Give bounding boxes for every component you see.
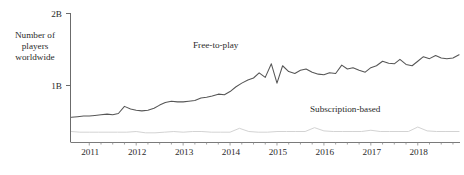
x-tick-label-2016: 2016 bbox=[305, 147, 345, 157]
chart-container: Number of players worldwide 2B 1B 201120… bbox=[0, 0, 464, 175]
y-tick-label-2b: 2B bbox=[34, 9, 62, 19]
y-tick-label-1b: 1B bbox=[34, 81, 62, 91]
x-tick-label-2011: 2011 bbox=[70, 147, 110, 157]
data-series-group bbox=[71, 55, 459, 133]
series-line-free-to-play bbox=[71, 55, 459, 118]
axes-group bbox=[66, 13, 460, 143]
series-label-free-to-play: Free-to-play bbox=[193, 40, 238, 50]
series-label-subscription: Subscription-based bbox=[310, 104, 380, 114]
x-tick-label-2017: 2017 bbox=[352, 147, 392, 157]
x-tick-label-2012: 2012 bbox=[117, 147, 157, 157]
series-line-subscription-based bbox=[71, 127, 459, 133]
y-axis-title: Number of players worldwide bbox=[4, 30, 66, 63]
x-tick-label-2014: 2014 bbox=[211, 147, 251, 157]
x-tick-label-2015: 2015 bbox=[258, 147, 298, 157]
x-tick-label-2018: 2018 bbox=[399, 147, 439, 157]
x-tick-label-2013: 2013 bbox=[164, 147, 204, 157]
